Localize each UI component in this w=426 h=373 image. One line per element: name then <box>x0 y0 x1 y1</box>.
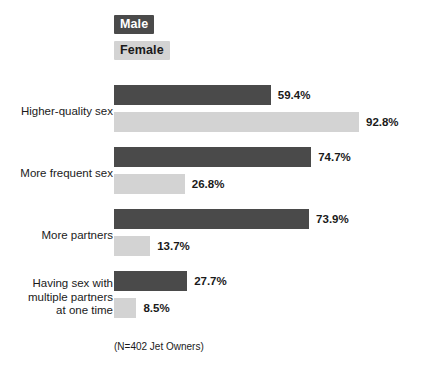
bar-group-label-line: Higher-quality sex <box>21 105 113 119</box>
bar-row-female: 26.8% <box>114 174 426 194</box>
bar-row-female: 13.7% <box>114 236 426 256</box>
bar-group-label: More partners <box>0 209 113 262</box>
bar-group-label-line: multiple partners <box>28 291 113 305</box>
bar-group-bars: 27.7%8.5% <box>114 271 426 318</box>
bar-female[interactable] <box>114 236 150 256</box>
grouped-bar-chart: Male Female Higher-quality sex59.4%92.8%… <box>0 0 426 373</box>
bar-group-bars: 74.7%26.8% <box>114 147 426 194</box>
bar-group-bars: 73.9%13.7% <box>114 209 426 256</box>
bar-female[interactable] <box>114 112 359 132</box>
bar-row-male: 74.7% <box>114 147 426 167</box>
legend-item-male[interactable]: Male <box>114 15 154 34</box>
chart-legend: Male Female <box>114 14 170 60</box>
bar-male[interactable] <box>114 209 309 229</box>
bar-group-label: Having sex withmultiple partnersat one t… <box>0 271 113 324</box>
bar-female[interactable] <box>114 174 185 194</box>
bar-group-label-line: More partners <box>41 229 113 243</box>
bar-row-male: 73.9% <box>114 209 426 229</box>
bar-value-male: 73.9% <box>316 213 349 225</box>
bar-group-bars: 59.4%92.8% <box>114 85 426 132</box>
bar-group-label-line: at one time <box>56 304 113 318</box>
bar-group: More partners73.9%13.7% <box>0 209 426 271</box>
bar-row-female: 8.5% <box>114 298 426 318</box>
bar-value-female: 26.8% <box>192 178 225 190</box>
bar-row-male: 59.4% <box>114 85 426 105</box>
bar-male[interactable] <box>114 147 311 167</box>
bar-male[interactable] <box>114 271 187 291</box>
bar-value-male: 74.7% <box>318 151 351 163</box>
bar-value-female: 92.8% <box>366 116 399 128</box>
bar-value-female: 13.7% <box>157 240 190 252</box>
bar-group: More frequent sex74.7%26.8% <box>0 147 426 209</box>
bar-group-label: More frequent sex <box>0 147 113 200</box>
bar-male[interactable] <box>114 85 271 105</box>
bar-value-female: 8.5% <box>143 302 169 314</box>
bar-group-label: Higher-quality sex <box>0 85 113 138</box>
bar-value-male: 59.4% <box>278 89 311 101</box>
bar-group-label-line: Having sex with <box>32 277 113 291</box>
bar-group: Having sex withmultiple partnersat one t… <box>0 271 426 333</box>
bar-value-male: 27.7% <box>194 275 227 287</box>
chart-footnote: (N=402 Jet Owners) <box>114 341 204 352</box>
bar-row-female: 92.8% <box>114 112 426 132</box>
bar-female[interactable] <box>114 298 136 318</box>
chart-plot-area: Higher-quality sex59.4%92.8%More frequen… <box>0 85 426 333</box>
bar-group: Higher-quality sex59.4%92.8% <box>0 85 426 147</box>
bar-row-male: 27.7% <box>114 271 426 291</box>
legend-item-female[interactable]: Female <box>114 41 170 60</box>
bar-group-label-line: More frequent sex <box>20 167 113 181</box>
